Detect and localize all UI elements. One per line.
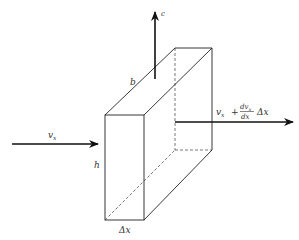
outflow-label: vx + dvx dx Δx bbox=[216, 103, 269, 121]
width-label: b bbox=[130, 77, 136, 87]
svg-text:vx: vx bbox=[216, 107, 225, 118]
svg-text:Δx: Δx bbox=[256, 107, 269, 117]
front-face bbox=[105, 115, 144, 220]
height-label: h bbox=[94, 160, 100, 170]
inflow-label: vx bbox=[48, 130, 57, 141]
box-edges bbox=[105, 48, 212, 220]
vertical-velocity-label: c bbox=[161, 10, 165, 18]
svg-text:dx: dx bbox=[241, 113, 249, 121]
svg-text:+: + bbox=[231, 107, 239, 117]
hidden-edges bbox=[105, 48, 212, 220]
svg-text:dvx: dvx bbox=[240, 103, 251, 112]
control-volume-diagram: c vx vx + dvx dx Δx b h Δx bbox=[0, 0, 299, 240]
thickness-label: Δx bbox=[118, 225, 131, 235]
